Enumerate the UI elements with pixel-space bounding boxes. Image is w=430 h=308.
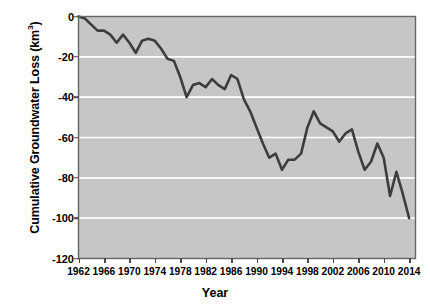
x-tick-mark [409,258,411,263]
y-tick-mark [74,56,79,58]
y-tick-mark [74,16,79,18]
y-tick-mark [74,258,79,260]
x-tick-mark [231,258,233,263]
y-tick-mark [74,177,79,179]
x-tick-mark [307,258,309,263]
groundwater-loss-chart: Cumulative Groundwater Loss (km3) Year 0… [0,0,430,308]
x-tick-mark [129,258,131,263]
x-tick-mark [180,258,182,263]
x-tick-mark [384,258,386,263]
x-tick-mark [257,258,259,263]
x-tick-mark [104,258,106,263]
x-tick-mark [358,258,360,263]
x-tick-mark [333,258,335,263]
x-axis-ticks: 1962196619701974197819821986199019941998… [0,0,430,308]
y-tick-mark [74,217,79,219]
x-tick-label: 2014 [389,266,429,277]
x-tick-mark [282,258,284,263]
x-tick-mark [206,258,208,263]
y-tick-mark [74,96,79,98]
y-tick-mark [74,137,79,139]
x-tick-mark [155,258,157,263]
